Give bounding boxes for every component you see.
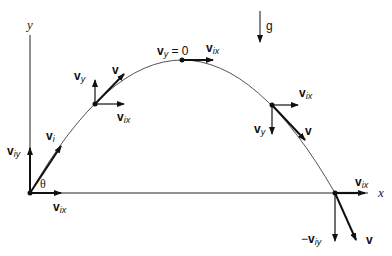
landing-v-label: v — [366, 233, 373, 247]
peak-vx-label: vix — [206, 41, 220, 56]
rising-v-label: v — [112, 63, 119, 77]
x-axis-label: x — [377, 185, 384, 200]
theta-label: θ — [40, 177, 46, 191]
rising-vx-label: vix — [117, 110, 131, 125]
y-axis-label: y — [25, 17, 33, 32]
falling-vx-label: vix — [299, 86, 313, 101]
rising-v-arrow — [95, 74, 124, 104]
gravity-label: g — [266, 19, 273, 33]
v-iy-label: viy — [7, 144, 21, 159]
falling-vy-label: vy — [254, 122, 266, 137]
falling-v-arrow — [272, 105, 305, 140]
landing-v-arrow — [335, 193, 356, 240]
v-ix-label-launch: vix — [53, 200, 67, 215]
rising-vy-label: vy — [74, 69, 86, 84]
peak-vy-label: vy = 0 — [157, 44, 189, 59]
landing-vx-label: vix — [355, 175, 369, 190]
landing-vy-label: −viy — [301, 232, 322, 247]
v-i-label: vi — [46, 129, 56, 144]
projectile-diagram: y x g viy vi θ vix vy v vix vy = 0 vix v… — [0, 0, 392, 256]
falling-v-label: v — [305, 124, 312, 138]
